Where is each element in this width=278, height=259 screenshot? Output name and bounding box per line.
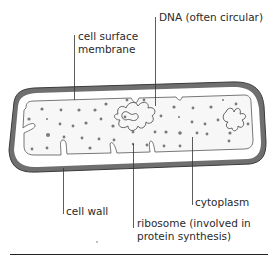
bacterial-cell-diagram: DNA (often circular) cell surface membra… bbox=[0, 0, 278, 259]
cell-surface-membrane-label-line1: cell surface bbox=[78, 30, 138, 43]
ribosome-label-line1: ribosome (involved in bbox=[137, 217, 251, 230]
dna-label: DNA (often circular) bbox=[159, 11, 263, 24]
stray-dot bbox=[96, 241, 98, 243]
ribosome-label-line2: protein synthesis) bbox=[137, 230, 231, 243]
cytoplasm-label: cytoplasm bbox=[195, 196, 249, 209]
cell-wall-label: cell wall bbox=[66, 205, 108, 218]
cell-surface-membrane-label-line2: membrane bbox=[78, 43, 135, 56]
